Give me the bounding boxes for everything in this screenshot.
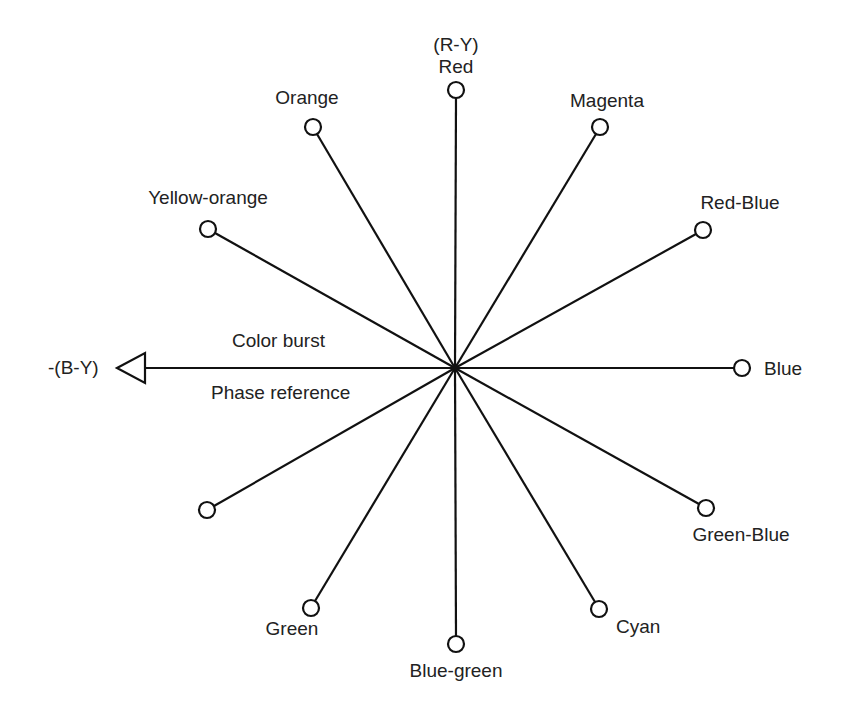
vector-blue-green-marker <box>448 636 464 652</box>
vector-cyan-marker <box>591 601 607 617</box>
vector-magenta-marker <box>592 119 608 135</box>
label-orange: Orange <box>275 87 338 109</box>
center-point <box>452 365 458 371</box>
burst-triangle-icon <box>117 353 145 383</box>
vector-blue-marker <box>734 360 750 376</box>
vector-red-blue-marker <box>695 222 711 238</box>
label-phase-reference: Phase reference <box>211 382 350 404</box>
vector-green-blue-marker <box>698 500 714 516</box>
vector-green-blue-line <box>455 368 699 504</box>
label-color-burst: Color burst <box>232 330 325 352</box>
label-b-y-axis: -(B-Y) <box>48 357 99 379</box>
label-yellow-orange: Yellow-orange <box>148 187 268 209</box>
label-magenta: Magenta <box>570 90 644 112</box>
vector-red-line <box>455 98 456 368</box>
label-blue-green: Blue-green <box>410 660 503 682</box>
vector-yellow-orange-marker <box>200 221 216 237</box>
vector-unlabeled-marker <box>199 502 215 518</box>
vector-blue-green-line <box>455 368 456 636</box>
vector-green-marker <box>303 600 319 616</box>
label-red: Red <box>439 56 474 78</box>
label-r-y: (R-Y) <box>433 34 478 56</box>
label-green-blue: Green-Blue <box>692 524 789 546</box>
label-blue: Blue <box>764 358 802 380</box>
vector-red-blue-line <box>455 234 696 368</box>
label-green: Green <box>266 618 319 640</box>
vector-cyan-line <box>455 368 595 602</box>
vector-orange-line <box>317 134 455 368</box>
vector-red-marker <box>448 82 464 98</box>
vector-magenta-line <box>455 134 596 368</box>
phase-diagram <box>0 0 846 713</box>
label-cyan: Cyan <box>616 616 660 638</box>
label-red-blue: Red-Blue <box>700 192 779 214</box>
vector-orange-marker <box>305 119 321 135</box>
